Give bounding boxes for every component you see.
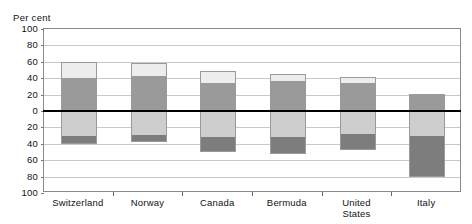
bar-segment-negative-lower	[131, 135, 167, 142]
y-tick-label: 80	[12, 170, 38, 181]
bar-segment-positive-upper	[131, 63, 167, 76]
gridline	[44, 78, 460, 79]
bar-segment-negative-upper	[200, 111, 236, 137]
y-tick-label: 0	[12, 105, 38, 116]
chart-figure: Per cent 10080604020020406080100 Switzer…	[0, 0, 472, 224]
y-tick-mark	[41, 144, 44, 145]
bar-segment-positive-upper	[200, 71, 236, 83]
bar-segment-negative-lower	[61, 136, 97, 144]
plot-area	[43, 28, 461, 192]
bar-segment-negative-lower	[200, 137, 236, 152]
bar-segment-positive-lower	[200, 83, 236, 111]
y-tick-label: 80	[12, 39, 38, 50]
x-axis-label-bermuda: Bermuda	[252, 197, 322, 208]
bar-segment-positive-upper	[61, 62, 97, 78]
x-axis-label-norway: Norway	[113, 197, 183, 208]
y-tick-mark	[41, 95, 44, 96]
gridline	[44, 160, 460, 161]
gridline	[44, 144, 460, 145]
bar-segment-negative-upper	[409, 111, 445, 136]
gridline	[44, 177, 460, 178]
x-tick-mark	[182, 192, 183, 196]
y-tick-label: 60	[12, 55, 38, 66]
x-tick-mark	[322, 192, 323, 196]
x-axis-label-switzerland: Switzerland	[43, 197, 113, 208]
y-tick-mark	[41, 45, 44, 46]
x-axis-label-italy: Italy	[391, 197, 461, 208]
x-axis-category-labels: SwitzerlandNorwayCanadaBermudaUnited Sta…	[43, 197, 461, 223]
x-tick-mark	[113, 192, 114, 196]
gridline	[44, 95, 460, 96]
x-axis-label-united-states: United States	[322, 197, 392, 219]
bar-segment-negative-lower	[409, 136, 445, 177]
y-tick-label: 100	[12, 187, 38, 198]
bar-segment-positive-lower	[409, 94, 445, 111]
y-tick-label: 20	[12, 121, 38, 132]
bar-segment-positive-upper	[270, 74, 306, 81]
bar-segment-negative-upper	[131, 111, 167, 135]
bar-segment-negative-lower	[270, 137, 306, 153]
bar-segment-positive-lower	[270, 81, 306, 111]
y-axis-tick-labels: 10080604020020406080100	[0, 28, 40, 192]
bar-segment-positive-lower	[340, 83, 376, 111]
gridline	[44, 127, 460, 128]
y-tick-mark	[41, 62, 44, 63]
bar-segment-negative-upper	[270, 111, 306, 137]
x-tick-mark	[252, 192, 253, 196]
zero-line	[43, 110, 461, 112]
y-axis-title: Per cent	[13, 12, 51, 23]
bar-segment-negative-upper	[340, 111, 376, 134]
y-tick-label: 40	[12, 72, 38, 83]
y-tick-label: 100	[12, 23, 38, 34]
y-tick-mark	[41, 29, 44, 30]
bar-segment-negative-lower	[340, 134, 376, 150]
y-tick-mark	[41, 127, 44, 128]
bar-segment-positive-lower	[61, 78, 97, 111]
x-tick-mark	[391, 192, 392, 196]
y-tick-label: 20	[12, 88, 38, 99]
y-tick-mark	[41, 177, 44, 178]
x-axis-label-canada: Canada	[182, 197, 252, 208]
bar-segment-positive-lower	[131, 76, 167, 111]
gridline	[44, 62, 460, 63]
bar-segment-negative-upper	[61, 111, 97, 136]
y-tick-mark	[41, 160, 44, 161]
y-tick-label: 60	[12, 154, 38, 165]
bar-segment-positive-upper	[340, 77, 376, 83]
gridline	[44, 45, 460, 46]
y-tick-label: 40	[12, 137, 38, 148]
y-tick-mark	[41, 78, 44, 79]
